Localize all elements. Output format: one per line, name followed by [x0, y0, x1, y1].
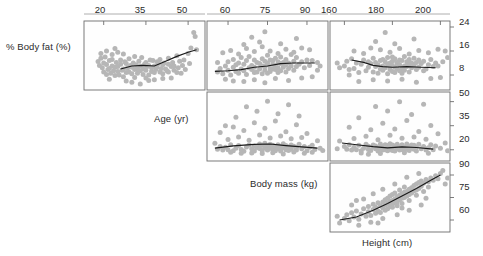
scatter-panel-d — [207, 92, 328, 161]
plot-canvas — [0, 0, 483, 256]
scatter-panel-f — [330, 163, 454, 232]
scatter-panel-c — [330, 21, 454, 90]
scatter-panel-b — [207, 21, 328, 90]
scatter-panel-a — [84, 21, 205, 90]
scatterplot-matrix-figure: % Body fat (%) Age (yr) Body mass (kg) H… — [0, 0, 483, 256]
scatter-panel-e — [330, 92, 454, 161]
